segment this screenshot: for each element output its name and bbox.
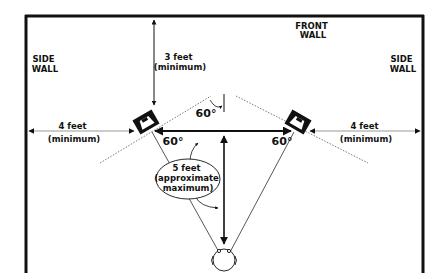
front-clearance-label: 3 feet (minimum) [154, 52, 206, 72]
left-triangle-angle-label: 60° [163, 135, 184, 148]
toe-in-angle-label: 60° [196, 107, 217, 120]
right-side-wall-label: SIDE WALL [390, 54, 417, 74]
right-triangle-angle-label: 60° [272, 135, 293, 148]
listener-head-icon [212, 249, 237, 271]
left-side-clearance-label: 4 feet (minimum) [48, 121, 100, 144]
right-side-clearance-label: 4 feet (minimum) [340, 121, 392, 144]
left-side-wall-label: SIDE WALL [32, 54, 59, 74]
speaker-placement-diagram: FRONT WALL SIDE WALL SIDE WALL 3 feet (m… [0, 0, 443, 279]
front-wall-label: FRONT WALL [295, 21, 330, 40]
